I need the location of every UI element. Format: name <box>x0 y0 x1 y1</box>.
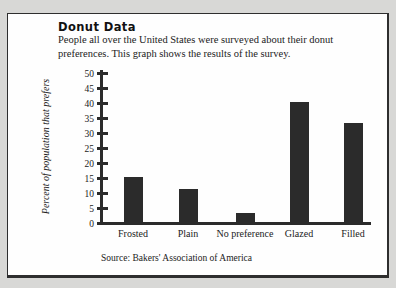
y-tick-label: 35 <box>68 113 94 125</box>
y-tick-mark <box>97 192 108 195</box>
bar-frosted <box>124 177 143 222</box>
x-category-label: Filled <box>311 228 395 239</box>
source-note: Source: Bakers' Association of America <box>101 253 252 263</box>
y-tick-mark <box>97 162 108 165</box>
y-tick-label: 50 <box>68 68 94 80</box>
scanned-worksheet-page: { "page": { "background_color": "#d8d8d6… <box>0 0 396 288</box>
y-tick-mark <box>97 102 108 105</box>
y-tick-mark <box>97 147 108 150</box>
y-tick-label: 20 <box>68 158 94 170</box>
bar-glazed <box>290 102 309 222</box>
bar-plain <box>179 189 198 222</box>
y-axis-title: Percent of population that prefers <box>40 65 51 229</box>
y-tick-mark <box>97 117 108 120</box>
y-tick-label: 45 <box>68 83 94 95</box>
y-tick-mark <box>97 72 108 75</box>
y-tick-label: 10 <box>68 188 94 200</box>
y-tick-label: 5 <box>68 203 94 215</box>
y-tick-mark <box>97 87 108 90</box>
bar-chart: Percent of population that prefers 05101… <box>8 14 387 275</box>
y-tick-mark <box>97 177 108 180</box>
y-tick-label: 15 <box>68 173 94 185</box>
y-tick-label: 30 <box>68 128 94 140</box>
y-tick-label: 25 <box>68 143 94 155</box>
worksheet-frame: Donut Data People all over the United St… <box>7 13 389 278</box>
bar-filled <box>344 123 363 222</box>
x-axis-line <box>100 222 371 225</box>
y-tick-mark <box>97 207 108 210</box>
y-tick-mark <box>97 222 108 225</box>
y-tick-label: 40 <box>68 98 94 110</box>
y-tick-mark <box>97 132 108 135</box>
bar-no-preference <box>236 213 255 222</box>
